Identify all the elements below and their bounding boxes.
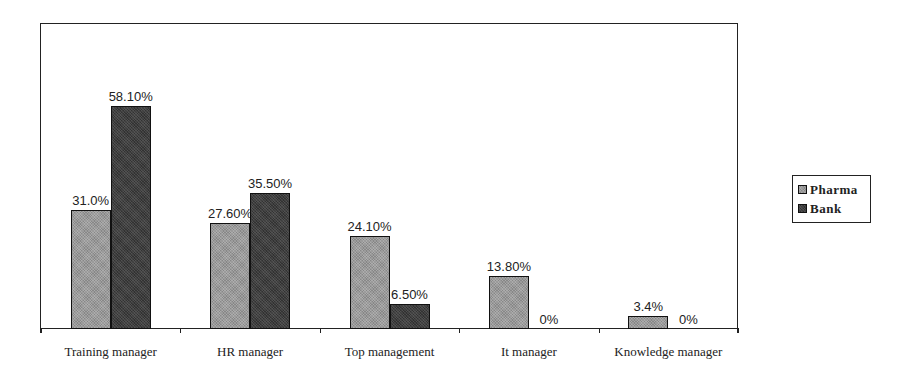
bank-swatch-icon — [798, 204, 807, 213]
category-label: Knowledge manager — [614, 344, 722, 360]
bar-bank — [250, 193, 290, 329]
data-label: 0% — [679, 312, 698, 327]
data-label: 6.50% — [391, 287, 428, 302]
bar-bank — [390, 304, 430, 329]
bar-pharma — [350, 236, 390, 329]
bar-pharma — [489, 276, 529, 329]
legend-label: Bank — [810, 201, 842, 217]
legend-item-pharma: Pharma — [798, 180, 865, 199]
data-label: 3.4% — [633, 299, 663, 314]
data-label: 35.50% — [248, 176, 292, 191]
legend-label: Pharma — [810, 182, 858, 198]
axis-tick — [180, 328, 181, 333]
data-label: 31.0% — [72, 193, 109, 208]
bar-bank — [111, 106, 151, 329]
category-label: HR manager — [217, 344, 283, 360]
axis-tick — [320, 328, 321, 333]
axis-tick — [738, 328, 739, 333]
data-label: 13.80% — [487, 259, 531, 274]
data-label: 0% — [539, 312, 558, 327]
data-label: 24.10% — [347, 219, 391, 234]
category-label: It manager — [501, 344, 557, 360]
category-label: Top management — [345, 344, 435, 360]
bar-pharma — [210, 223, 250, 329]
axis-tick — [459, 328, 460, 333]
bar-pharma — [71, 210, 111, 329]
category-label: Training manager — [65, 344, 157, 360]
axis-tick — [599, 328, 600, 333]
legend: Pharma Bank — [792, 175, 871, 223]
data-label: 27.60% — [208, 206, 252, 221]
data-label: 58.10% — [109, 89, 153, 104]
pharma-swatch-icon — [798, 185, 807, 194]
axis-tick — [41, 328, 42, 333]
legend-item-bank: Bank — [798, 199, 865, 218]
bar-pharma — [628, 316, 668, 329]
